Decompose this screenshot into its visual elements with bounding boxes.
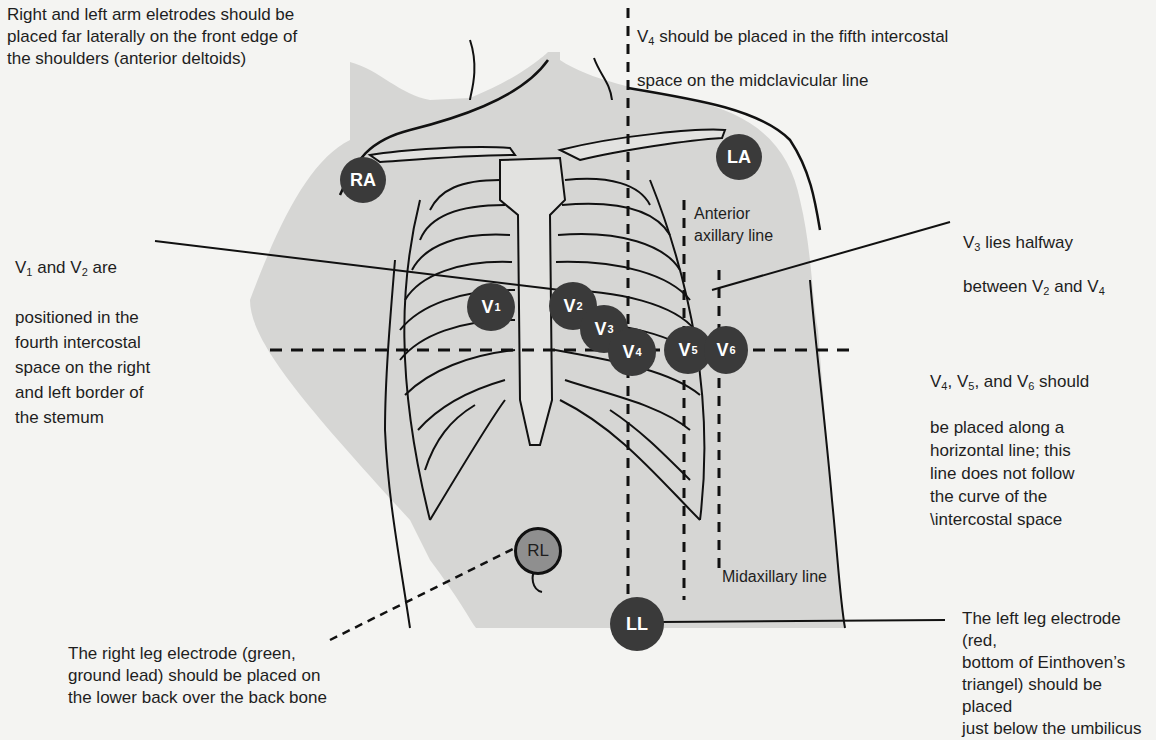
v4-text-line2: space on the midclavicular line (637, 71, 869, 90)
electrode-la-label: LA (727, 147, 751, 168)
electrode-rl[interactable]: RL (514, 527, 562, 575)
v3-post: lies halfway (980, 233, 1073, 252)
electrode-v3-letter: V (594, 319, 606, 340)
electrode-la[interactable]: LA (716, 134, 762, 180)
v3-line2-mid: and V (1049, 277, 1098, 296)
annotation-arm-electrodes: Right and left arm eletrodes should be p… (7, 4, 297, 70)
electrode-v6-letter: V (716, 340, 728, 361)
annotation-right-leg: The right leg electrode (green, ground l… (68, 643, 327, 709)
v4-text-letter: V (637, 27, 648, 46)
label-midaxillary-line: Midaxillary line (722, 566, 827, 588)
annotation-v1-v2: V1 and V2 are positioned in the fourth i… (15, 230, 150, 430)
annotation-v4-placement: V4 should be placed in the fifth interco… (637, 4, 948, 92)
electrode-v4-letter: V (622, 342, 634, 363)
annotation-v3: V3 lies halfway between V2 and V4 (963, 210, 1105, 298)
electrode-v4[interactable]: V4 (608, 328, 656, 376)
v456-p3: , and V (974, 372, 1028, 391)
label-anterior-axillary-line: Anterior axillary line (694, 203, 773, 247)
neck-left (470, 40, 474, 100)
v456-rest: be placed along a horizontal line; this … (930, 418, 1075, 529)
v1v2-post: are (88, 258, 117, 277)
v4-text-line1: should be placed in the fifth intercosta… (654, 27, 948, 46)
v3-line2-pre: between V (963, 277, 1043, 296)
v456-p1: V (930, 372, 941, 391)
v1v2-letter: V (15, 258, 26, 277)
v3-line2-sub2: 4 (1099, 285, 1105, 297)
v3-letter: V (963, 233, 974, 252)
electrode-ra-label: RA (350, 170, 376, 191)
v456-p2: , V (947, 372, 968, 391)
v1v2-mid: and V (32, 258, 81, 277)
electrode-v1[interactable]: V1 (467, 283, 515, 331)
electrode-v5-letter: V (678, 340, 690, 361)
v456-p4: should (1034, 372, 1089, 391)
electrode-rl-label: RL (527, 541, 549, 561)
electrode-ll[interactable]: LL (610, 597, 664, 651)
electrode-v1-letter: V (481, 297, 493, 318)
v1v2-rest: positioned in the fourth intercostal spa… (15, 308, 150, 427)
electrode-ra[interactable]: RA (340, 157, 386, 203)
electrode-v2-letter: V (563, 296, 575, 317)
electrode-v6[interactable]: V6 (704, 326, 748, 374)
annotation-left-leg: The left leg electrode (red, bottom of E… (962, 608, 1156, 740)
electrode-ll-label: LL (626, 614, 648, 635)
annotation-v4-v5-v6: V4, V5, and V6 should be placed along a … (930, 347, 1089, 531)
